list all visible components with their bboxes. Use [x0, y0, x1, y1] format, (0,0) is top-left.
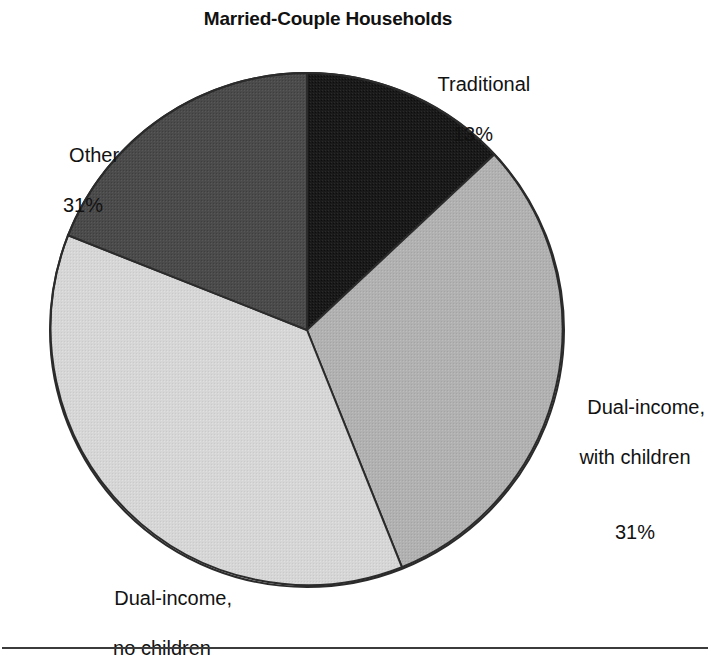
- pie-label-traditional-pct: 13%: [388, 122, 558, 147]
- pie-label-dual-no-line1: Dual-income,: [114, 587, 232, 609]
- pie-label-other: Other 31%: [18, 118, 148, 268]
- bottom-divider: [2, 647, 708, 649]
- chart-title: Married-Couple Households: [0, 8, 684, 30]
- pie-label-other-name: Other: [69, 144, 119, 166]
- pie-label-dual-income-with-children: Dual-income, with children 31%: [560, 370, 710, 595]
- pie-label-dual-with-line1: Dual-income,: [587, 396, 705, 418]
- pie-label-dual-with-pct: 31%: [560, 520, 710, 545]
- pie-label-dual-income-no-children: Dual-income, no children 25%: [52, 561, 272, 665]
- pie-label-dual-with-line2: with children: [560, 445, 710, 470]
- pie-chart-figure: Married-Couple Households: [0, 0, 712, 665]
- pie-label-traditional: Traditional 13%: [388, 47, 558, 197]
- pie-label-traditional-name: Traditional: [438, 73, 531, 95]
- pie-label-other-pct: 31%: [18, 193, 148, 218]
